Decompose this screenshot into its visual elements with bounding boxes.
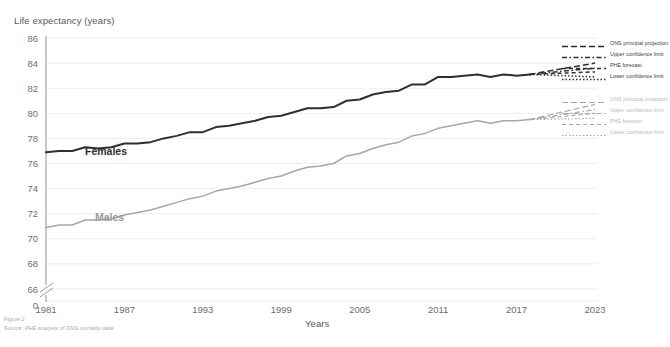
legend-label: Upper confidence limit xyxy=(610,49,664,60)
legend-swatch-dash-dot-icon xyxy=(562,49,606,60)
legend-label: PHE forecast xyxy=(610,60,642,71)
legend-swatch-dotted-icon xyxy=(562,127,606,138)
legend-swatch-dashed-long-icon xyxy=(562,94,606,105)
legend-swatch-dashed-med-icon xyxy=(562,60,606,71)
legend-item: ONS principal projection xyxy=(562,94,668,105)
legend-item: PHE forecast xyxy=(562,60,668,71)
legend-item: Upper confidence limit xyxy=(562,49,668,60)
legend-swatch-dotted-icon xyxy=(562,71,606,82)
legend-item: Lower confidence limit xyxy=(562,127,668,138)
legend-item: Lower confidence limit xyxy=(562,71,668,82)
legend-label: Lower confidence limit xyxy=(610,127,664,138)
series-label-males: Males xyxy=(95,211,124,223)
legend-swatch-dash-dot-icon xyxy=(562,105,606,116)
figure-container: Life expectancy (years) Years 8684828078… xyxy=(0,0,670,347)
legend-label: PHE forecast xyxy=(610,116,642,127)
legend-item: ONS principal projection xyxy=(562,38,668,49)
figure-caption: Figure 2 xyxy=(4,316,25,322)
figure-source: Source: PHE analysis of ONS mortality da… xyxy=(4,325,113,331)
legend-label: ONS principal projection xyxy=(610,38,668,49)
legend-swatch-dashed-long-icon xyxy=(562,38,606,49)
legend-females: ONS principal projectionUpper confidence… xyxy=(562,38,668,82)
legend-swatch-dashed-med-icon xyxy=(562,116,606,127)
series-label-females: Females xyxy=(85,145,127,157)
legend-label: ONS principal projection xyxy=(610,94,668,105)
legend-males: ONS principal projectionUpper confidence… xyxy=(562,94,668,138)
legend-item: PHE forecast xyxy=(562,116,668,127)
legend-item: Upper confidence limit xyxy=(562,105,668,116)
legend-label: Upper confidence limit xyxy=(610,105,664,116)
legend-label: Lower confidence limit xyxy=(610,71,664,82)
